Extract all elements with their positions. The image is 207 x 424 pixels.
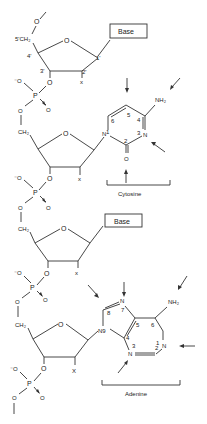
svg-text:P: P [27,380,32,387]
sugar-3: O x O Base [30,214,142,277]
svg-text:O: O [15,299,20,305]
svg-text:O: O [46,205,51,211]
svg-text:CH₂: CH₂ [15,322,27,328]
sugar-1: O 5'CH₂ 4' O 1' 3' 2' x Base O [15,12,147,86]
svg-text:O: O [58,321,64,328]
svg-text:CH₂: CH₂ [18,226,30,232]
nucleic-acid-diagram: O 5'CH₂ 4' O 1' 3' 2' x Base O ⁻O P O O … [0,0,207,424]
svg-text:3: 3 [137,130,141,136]
phosphate-3: ⁻O P O O CH₂ [14,270,48,328]
svg-text:N: N [128,351,132,357]
svg-text:O: O [47,175,53,182]
svg-text:NH₂: NH₂ [168,299,180,305]
svg-text:N: N [143,132,147,138]
svg-text:6: 6 [151,322,155,328]
svg-text:P: P [33,92,38,99]
svg-text:O: O [63,130,69,137]
phosphate-1: ⁻O P O O CH₂ [14,78,51,135]
svg-text:4: 4 [137,117,141,123]
svg-text:NH₂: NH₂ [155,97,167,103]
svg-text:⁻O: ⁻O [10,366,18,372]
svg-text:5: 5 [136,322,140,328]
svg-text:⁻O: ⁻O [14,270,22,276]
svg-text:O: O [34,18,40,25]
svg-text:4: 4 [126,335,130,341]
svg-text:N9: N9 [98,328,106,334]
phosphate-2: ⁻O P O O CH₂ [14,175,51,232]
svg-text:⁻O: ⁻O [14,175,22,181]
svg-text:N: N [120,298,124,304]
svg-text:O: O [47,79,53,86]
svg-text:O: O [41,365,47,372]
phosphate-4: ⁻O P O O [10,366,45,414]
svg-text:N: N [162,343,166,349]
svg-text:O: O [18,205,23,211]
svg-text:O: O [43,297,48,303]
svg-text:6: 6 [111,118,115,124]
svg-text:3': 3' [40,68,44,74]
svg-text:5: 5 [127,112,131,118]
svg-text:2: 2 [124,138,128,144]
svg-text:Adenine: Adenine [125,391,148,397]
svg-text:O: O [46,107,51,113]
cytosine-base: N 1 6 5 4 N 3 2 O NH₂ Cytosine [102,78,180,197]
sugar-2: O x O [30,130,104,182]
svg-text:x: x [75,270,78,276]
svg-text:7: 7 [121,307,125,313]
svg-text:P: P [33,189,38,196]
svg-text:Cytosine: Cytosine [118,191,142,197]
svg-text:O: O [64,37,70,44]
svg-text:4': 4' [27,53,31,59]
sugar-4: O X O [28,321,98,374]
svg-text:x: x [80,79,83,85]
svg-text:2': 2' [82,69,86,75]
adenine-base: N9 8 N 7 5 6 4 N 1 N 3 2 NH₂ [88,276,195,397]
svg-text:X: X [72,368,76,374]
svg-text:O: O [61,225,67,232]
svg-text:3: 3 [132,343,136,349]
svg-text:P: P [30,284,35,291]
svg-text:5'CH₂: 5'CH₂ [15,36,31,42]
svg-text:x: x [78,176,81,182]
svg-text:Base: Base [114,218,130,225]
svg-text:O: O [40,395,45,401]
svg-text:O: O [12,395,17,401]
svg-text:O: O [18,108,23,114]
svg-text:CH₂: CH₂ [18,129,30,135]
svg-text:8: 8 [107,310,111,316]
svg-text:⁻O: ⁻O [14,78,22,84]
svg-text:O: O [124,156,129,162]
svg-text:Base: Base [118,28,134,35]
svg-text:O: O [44,270,50,277]
